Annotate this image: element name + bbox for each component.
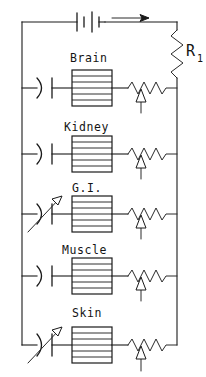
muscle-capacitor (37, 266, 52, 286)
skin-cap-variability-arrowhead (52, 327, 62, 336)
current-direction-arrow (112, 15, 149, 22)
brain-capacitor (37, 78, 52, 98)
circuit-diagram: R 1 Brain (0, 0, 206, 377)
r1-label: R 1 (186, 42, 203, 64)
circuit-canvas: R 1 Brain (0, 0, 206, 377)
right-rail-group (171, 22, 183, 345)
skin-cap-variability-arrow-shaft (28, 329, 60, 363)
gi-cap-variability-arrow-shaft (28, 198, 60, 232)
branch-muscle: Muscle (22, 243, 177, 301)
gi-compartment-box (72, 196, 112, 232)
branch-label-gi: G.I. (72, 181, 102, 195)
gi-wiper-arrowhead (136, 215, 146, 228)
r1-label-main: R (186, 42, 196, 60)
branch-label-brain: Brain (70, 51, 108, 65)
gi-resistor-zigzag (128, 208, 177, 220)
branch-gi: G.I. (22, 181, 177, 239)
branch-label-kidney: Kidney (64, 120, 109, 134)
kidney-compartment-box (72, 136, 112, 172)
brain-compartment-box (72, 70, 112, 106)
branch-label-skin: Skin (72, 306, 102, 320)
r1-resistor-zigzag (171, 30, 183, 78)
muscle-compartment-box (72, 258, 112, 294)
kidney-capacitor (37, 144, 52, 164)
branch-kidney: Kidney (22, 120, 177, 179)
branch-label-muscle: Muscle (62, 243, 107, 257)
kidney-cap-curved-plate (37, 144, 42, 164)
branch-brain: Brain (22, 51, 177, 113)
brain-cap-curved-plate (37, 78, 42, 98)
skin-resistor-zigzag (128, 339, 177, 351)
brain-resistor-zigzag (128, 82, 177, 94)
brain-wiper-arrowhead (136, 89, 146, 102)
skin-wiper-arrowhead (136, 346, 146, 359)
r1-label-subscript: 1 (197, 53, 203, 64)
kidney-resistor-zigzag (128, 148, 177, 160)
muscle-cap-curved-plate (37, 266, 42, 286)
muscle-wiper-arrowhead (136, 277, 146, 290)
battery-symbol (77, 12, 105, 32)
branch-skin: Skin (22, 306, 177, 371)
kidney-wiper-arrowhead (136, 155, 146, 168)
skin-compartment-box (72, 327, 112, 363)
muscle-resistor-zigzag (128, 270, 177, 282)
gi-cap-variability-arrowhead (52, 196, 62, 205)
